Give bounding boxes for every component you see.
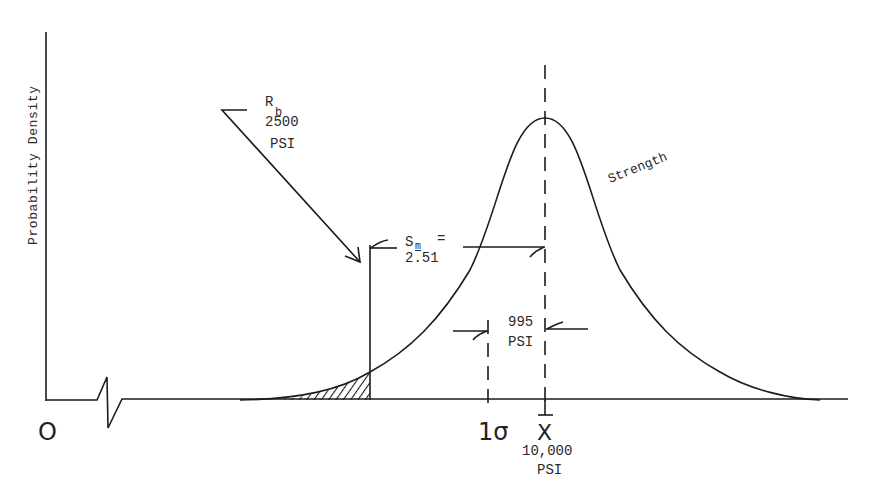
sm-dimension xyxy=(370,240,545,257)
rb-leader-arrow xyxy=(222,110,360,262)
svg-text:S: S xyxy=(405,234,413,250)
mean-label: X 10,000 PSI xyxy=(522,420,572,478)
rb-label: R b 2500 PSI xyxy=(265,94,299,152)
svg-text:PSI: PSI xyxy=(508,334,533,350)
sm-label: S m = 2.51 xyxy=(405,231,445,266)
svg-text:X: X xyxy=(537,420,552,445)
svg-text:=: = xyxy=(437,231,445,247)
sigma-label: 995 PSI xyxy=(508,314,533,350)
svg-text:995: 995 xyxy=(508,314,533,330)
svg-text:PSI: PSI xyxy=(537,462,562,478)
x-axis xyxy=(46,377,848,428)
svg-text:2500: 2500 xyxy=(265,114,299,130)
strength-distribution-diagram: Probability Density O Strength R b 2500 … xyxy=(0,0,871,495)
one-sigma-label: 1σ xyxy=(478,418,508,446)
svg-text:2.51: 2.51 xyxy=(405,250,439,266)
y-axis-label: Probability Density xyxy=(26,85,41,245)
svg-text:PSI: PSI xyxy=(270,136,295,152)
strength-curve xyxy=(240,118,820,400)
svg-text:R: R xyxy=(265,94,274,110)
origin-label: O xyxy=(38,418,57,446)
strength-label: Strength xyxy=(606,149,669,186)
svg-text:10,000: 10,000 xyxy=(522,443,572,459)
